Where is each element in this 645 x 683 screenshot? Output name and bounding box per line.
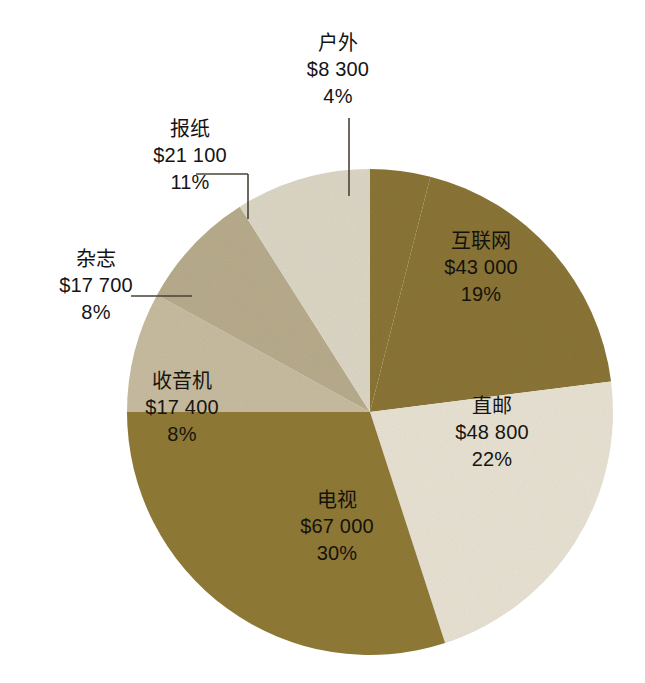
slice-label-magazine: 杂志 $17 700 8% <box>16 246 176 325</box>
slice-label-outdoor-name: 户外 <box>268 30 408 56</box>
slice-label-magazine-name: 杂志 <box>16 246 176 272</box>
slice-label-internet-name: 互联网 <box>406 228 556 254</box>
slice-label-newspaper-value: $21 100 <box>110 142 270 168</box>
slice-label-television: 电视 $67 000 30% <box>262 487 412 566</box>
slice-label-television-name: 电视 <box>262 487 412 513</box>
pie-chart: 户外 $8 300 4% 报纸 $21 100 11% 杂志 $17 700 8… <box>0 0 645 683</box>
slice-label-internet-value: $43 000 <box>406 254 556 280</box>
slice-label-outdoor-value: $8 300 <box>268 56 408 82</box>
slice-label-direct-mail: 直邮 $48 800 22% <box>412 393 572 472</box>
slice-label-internet-percent: 19% <box>406 281 556 307</box>
slice-label-outdoor: 户外 $8 300 4% <box>268 30 408 109</box>
slice-label-outdoor-percent: 4% <box>268 83 408 109</box>
slice-label-direct-mail-percent: 22% <box>412 446 572 472</box>
slice-label-newspaper: 报纸 $21 100 11% <box>110 116 270 195</box>
slice-label-newspaper-name: 报纸 <box>110 116 270 142</box>
slice-label-magazine-percent: 8% <box>16 299 176 325</box>
slice-label-television-percent: 30% <box>262 540 412 566</box>
slice-label-magazine-value: $17 700 <box>16 272 176 298</box>
slice-label-internet: 互联网 $43 000 19% <box>406 228 556 307</box>
slice-label-newspaper-percent: 11% <box>110 169 270 195</box>
slice-label-direct-mail-name: 直邮 <box>412 393 572 419</box>
slice-label-direct-mail-value: $48 800 <box>412 419 572 445</box>
slice-label-television-value: $67 000 <box>262 513 412 539</box>
slice-label-radio-value: $17 400 <box>112 394 252 420</box>
slice-label-radio-percent: 8% <box>112 421 252 447</box>
slice-label-radio: 收音机 $17 400 8% <box>112 368 252 447</box>
slice-label-radio-name: 收音机 <box>112 368 252 394</box>
